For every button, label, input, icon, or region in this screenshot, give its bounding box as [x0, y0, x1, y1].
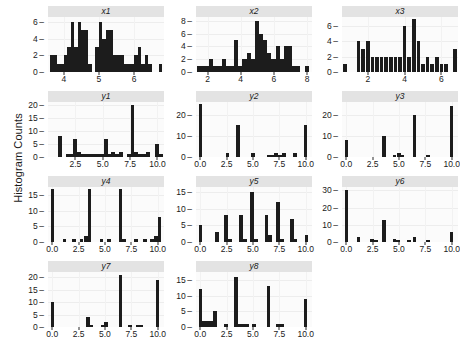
histogram-bar [250, 192, 254, 242]
panel-grid: 0–2–4–6–x14560–2–4–6–8–x224680–2–4–6–x32… [18, 6, 457, 345]
x-tick-label: 2.5 [221, 330, 233, 339]
y-tick-label: 0– [33, 238, 44, 247]
x-tick-label: 5.0 [247, 160, 259, 169]
y-tick-label: 10– [176, 204, 192, 213]
x-tick-label: 2.5 [69, 160, 81, 169]
histogram-bar [426, 57, 430, 72]
facet-strip-y2: y2 [196, 91, 312, 102]
x-tick-label: 5.0 [99, 330, 111, 339]
histogram-bar [88, 64, 92, 72]
horizontal-gridline [342, 190, 458, 191]
x-tick-label: 7.5 [273, 160, 285, 169]
vertical-gridline [399, 102, 400, 157]
facet-panel-x2: 0–2–4–6–8–x22468 [166, 6, 312, 91]
facet-panel-y5: 0–5–10–15–y50.02.55.07.510.0 [166, 176, 312, 261]
histogram-bar [444, 64, 448, 72]
y-tick-label: 5– [33, 140, 44, 149]
x-tick-label: 0.0 [46, 245, 58, 254]
horizontal-gridline [342, 136, 458, 137]
x-tick-label: 10.0 [149, 330, 166, 339]
horizontal-gridline [48, 302, 164, 303]
facet-panel-x1: 0–2–4–6–x1456 [18, 6, 164, 91]
x-tick-label: 7.5 [419, 160, 431, 169]
x-tick-label: 10.0 [297, 330, 314, 339]
facet-strip-y5: y5 [196, 176, 312, 187]
histogram-bar [412, 19, 416, 72]
y-axis-y3: 0–10–20– [312, 91, 342, 157]
x-axis-x1: 456 [48, 72, 164, 88]
x-tick-label: 2 [365, 75, 370, 84]
x-tick-label: 2 [205, 75, 210, 84]
histogram-bar [236, 125, 240, 157]
x-tick-label: 5.0 [393, 245, 405, 254]
y-axis-x1: 0–2–4–6– [18, 6, 48, 72]
y-tick-label: 4– [181, 42, 192, 51]
horizontal-gridline [196, 296, 312, 297]
histogram-bar [199, 225, 203, 242]
y-tick-label: 20– [322, 203, 338, 212]
x-tick-label: 2.5 [221, 160, 233, 169]
horizontal-gridline [48, 211, 164, 212]
histogram-bar [440, 64, 444, 72]
histogram-bar [276, 202, 280, 242]
facet-strip-y4: y4 [48, 176, 164, 187]
vertical-gridline [105, 272, 106, 327]
y-axis-y7: 0–5–10–15–20– [18, 261, 48, 327]
horizontal-gridline [342, 115, 458, 116]
panel-row: 0–2–4–6–x14560–2–4–6–8–x224680–2–4–6–x32… [18, 6, 457, 91]
histogram-bar [148, 64, 152, 72]
y-tick-label: 10– [176, 291, 192, 300]
x-tick-label: 5.0 [99, 245, 111, 254]
panel-row: 0–5–10–15–20–y12.55.07.510.00–10–20–y20.… [18, 91, 457, 176]
facet-strip-label: y5 [196, 176, 312, 187]
histogram-bar [375, 57, 379, 72]
plot-area-y3 [342, 102, 458, 157]
x-tick-label: 2.5 [367, 245, 379, 254]
histogram-bar [417, 41, 421, 72]
facet-strip-label: x2 [196, 6, 312, 17]
y-axis-y6: 0–10–20–30– [312, 176, 342, 242]
facet-strip-y1: y1 [48, 91, 164, 102]
histogram-bar [199, 104, 203, 157]
histogram-bar [361, 49, 365, 72]
histogram-bar [158, 217, 162, 242]
y-axis-y2: 0–10–20– [166, 91, 196, 157]
y-tick-label: 5– [181, 307, 192, 316]
histogram-bar [382, 220, 386, 242]
x-tick-label: 7.5 [125, 330, 137, 339]
facet-strip-label: y1 [48, 91, 164, 102]
y-tick-label: 30– [322, 186, 338, 195]
y-axis-y8: 0–5–10–15– [166, 261, 196, 327]
x-tick-label: 7.5 [273, 245, 285, 254]
facet-panel-y2: 0–10–20–y20.02.55.07.510.0 [166, 91, 312, 176]
histogram-bar [366, 41, 370, 72]
y-tick-label: 2– [327, 52, 338, 61]
histogram-bar [51, 302, 55, 327]
y-axis-x3: 0–2–4–6– [312, 6, 342, 72]
y-tick-label: 15– [28, 191, 44, 200]
y-axis-x2: 0–2–4–6–8– [166, 6, 196, 72]
y-tick-label: 10– [28, 127, 44, 136]
facet-strip-y3: y3 [342, 91, 458, 102]
y-tick-label: 4– [327, 37, 338, 46]
horizontal-gridline [48, 105, 164, 106]
y-tick-label: 10– [322, 132, 338, 141]
histogram-bar [389, 57, 393, 72]
facet-strip-label: x3 [342, 6, 458, 17]
horizontal-gridline [196, 192, 312, 193]
x-tick-label: 2.5 [367, 160, 379, 169]
y-tick-label: 0– [327, 238, 338, 247]
y-tick-label: 20– [322, 110, 338, 119]
x-tick-label: 0.0 [340, 245, 352, 254]
horizontal-gridline [196, 115, 312, 116]
vertical-gridline [425, 102, 426, 157]
x-tick-label: 7.5 [124, 160, 136, 169]
horizontal-gridline [48, 290, 164, 291]
histogram-bar [58, 136, 62, 157]
y-tick-label: 2– [33, 51, 44, 60]
plot-area-x2 [196, 17, 312, 72]
y-tick-label: 0– [327, 68, 338, 77]
vertical-gridline [131, 272, 132, 327]
y-axis-y4: 0–5–10–15– [18, 176, 48, 242]
